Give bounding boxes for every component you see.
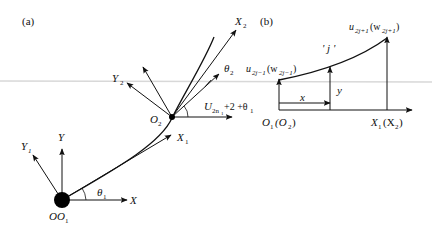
y2-axis-label: Y 2 [112,72,124,87]
svg-text:2: 2 [230,69,234,77]
u-angle-arc [184,106,188,117]
svg-text:2j+1: 2j+1 [382,27,396,35]
y1-axis-label: Y 1 [21,140,32,155]
svg-text:2j−1: 2j−1 [252,69,266,77]
y-axis-label: Y [58,131,66,143]
o2-label: O 2 [150,113,162,128]
svg-text:Y: Y [112,72,120,84]
svg-text:2: 2 [158,120,162,128]
svg-text:2: 2 [243,22,247,30]
x-axis-label: X [129,194,138,206]
y1-axis-arrow [33,155,62,200]
svg-text:(w: (w [370,21,381,33]
svg-text:1: 1 [65,217,69,225]
svg-text:2j−1: 2j−1 [279,69,293,77]
svg-text:): ) [293,63,296,75]
svg-text:u: u [349,21,354,32]
panel-a-label: (a) [22,15,35,28]
svg-text:): ) [396,21,399,33]
x2-axis-label: X 2 [234,15,247,30]
svg-text:1: 1 [270,123,274,131]
svg-text:(O: (O [275,116,287,129]
b-origin-label: O 1 (O 2 ) [262,116,296,131]
theta2-label: θ 2 [224,62,234,77]
y2-axis-arrow [143,67,172,117]
svg-text:1: 1 [378,123,382,131]
svg-text:): ) [292,116,296,129]
svg-text:u: u [246,63,251,74]
svg-text:): ) [399,116,403,129]
origin-label: O O 1 [49,210,69,225]
b-end-label: X 1 (X 2 ) [370,116,403,131]
left-node-label: u 2j−1 (w 2j−1 ) [246,63,296,77]
o2-node [169,114,175,120]
beam-element-diagram: (a) X Y Y 1 X 1 X 2 Y 2 θ 1 θ 2 U [0,0,432,232]
svg-text:+2 +θ: +2 +θ [224,101,248,112]
normal-arrow [127,83,172,117]
origin-node [54,192,70,208]
svg-text:O: O [262,116,270,128]
svg-text:X: X [234,15,243,27]
svg-text:2: 2 [120,79,124,87]
theta1-label: θ 1 [97,186,107,201]
x1-axis-label: X 1 [176,131,189,146]
element-j-label: ' j ' [322,42,336,54]
scan-artifact-line [0,81,432,82]
x-distance-label: x [299,91,305,103]
theta1-arc [82,188,86,200]
svg-text:(w: (w [267,63,278,75]
svg-text:X: X [176,131,185,143]
right-node-label: u 2j+1 (w 2j+1 ) [349,21,399,35]
svg-text:1: 1 [103,193,107,201]
svg-text:1: 1 [185,138,189,146]
svg-text:1: 1 [28,147,32,155]
svg-text:O: O [57,210,65,222]
svg-text:2j+1: 2j+1 [355,27,369,35]
beam-curve [62,37,214,200]
svg-text:2n: 2n [212,107,220,115]
u-angle-label: U 2n 1 +2 +θ 1 [204,100,254,116]
svg-text:1: 1 [250,107,254,115]
y-height-label: y [336,84,342,96]
svg-text:(X: (X [383,116,395,129]
svg-text:O: O [49,210,57,222]
svg-text:O: O [150,113,158,125]
panel-b-label: (b) [260,15,273,28]
